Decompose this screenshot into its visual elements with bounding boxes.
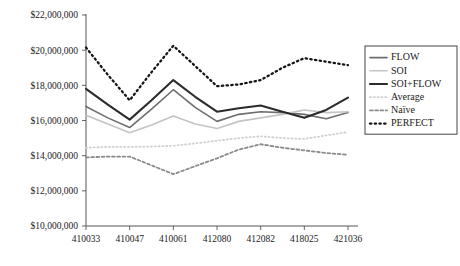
legend-label-na-ve: Naïve: [391, 104, 415, 115]
legend-label-soi: SOI: [391, 65, 407, 76]
x-tick-label: 410061: [159, 234, 188, 244]
x-axis: 4100334100474100614120804120824180254210…: [72, 226, 363, 244]
x-tick-label: 418025: [290, 234, 319, 244]
series-line-perfect: [86, 46, 348, 101]
y-tick-label: $18,000,000: [31, 81, 79, 91]
series-line-na-ve: [86, 144, 348, 174]
x-tick-label: 412082: [246, 234, 275, 244]
y-tick-label: $22,000,000: [31, 10, 79, 20]
x-tick-label: 421036: [334, 234, 363, 244]
legend-label-soi-flow: SOI+FLOW: [391, 78, 442, 89]
y-axis: $10,000,000$12,000,000$14,000,000$16,000…: [31, 10, 87, 231]
plot-series-group: [86, 46, 348, 174]
x-tick-label: 412080: [203, 234, 232, 244]
y-tick-label: $12,000,000: [31, 186, 79, 196]
x-tick-label: 410033: [72, 234, 101, 244]
line-chart: $10,000,000$12,000,000$14,000,000$16,000…: [0, 0, 460, 266]
legend-label-flow: FLOW: [391, 51, 420, 62]
series-line-average: [86, 132, 348, 148]
legend-label-average: Average: [391, 91, 425, 102]
legend-label-perfect: PERFECT: [391, 117, 434, 128]
y-tick-label: $16,000,000: [31, 116, 79, 126]
y-tick-label: $14,000,000: [31, 151, 79, 161]
chart-canvas: $10,000,000$12,000,000$14,000,000$16,000…: [0, 0, 460, 266]
x-tick-label: 410047: [115, 234, 144, 244]
y-tick-label: $10,000,000: [31, 221, 79, 231]
chart-legend: FLOWSOISOI+FLOWAverageNaïvePERFECT: [365, 46, 457, 134]
y-tick-label: $20,000,000: [31, 46, 79, 56]
